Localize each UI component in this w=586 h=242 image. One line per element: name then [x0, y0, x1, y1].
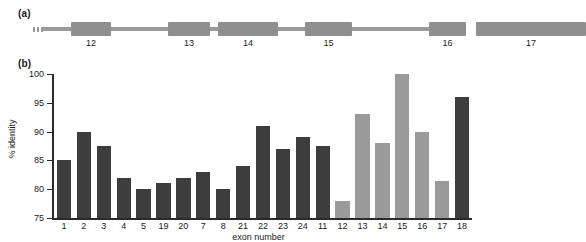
- y-tick-label-85: 85: [0, 156, 44, 165]
- bar-slot-exon-19: [156, 74, 170, 218]
- y-tick-mark-95: [47, 103, 53, 104]
- exon-label-12: 12: [81, 38, 101, 48]
- bar-exon-18: [455, 97, 469, 218]
- bar-exon-23: [276, 149, 290, 218]
- exon-box-17: [476, 22, 586, 36]
- y-tick-label-90: 90: [0, 128, 44, 137]
- bar-exon-13: [355, 114, 369, 218]
- bar-series: [54, 74, 472, 218]
- dot: [33, 27, 35, 32]
- gene-structure-diagram: 121314151617: [33, 22, 463, 36]
- exon-label-14: 14: [238, 38, 258, 48]
- exon-box-12: [71, 22, 111, 36]
- bar-exon-12: [335, 201, 349, 218]
- y-tick-label-100: 100: [0, 70, 44, 79]
- bar-exon-8: [216, 189, 230, 218]
- x-axis-line: [52, 218, 472, 220]
- exon-box-13: [168, 22, 210, 36]
- bar-slot-exon-24: [296, 74, 310, 218]
- bar-slot-exon-1: [57, 74, 71, 218]
- exon-box-15: [305, 22, 352, 36]
- bar-exon-24: [296, 137, 310, 218]
- dot: [37, 27, 39, 32]
- bar-slot-exon-15: [395, 74, 409, 218]
- panel-a-label: (a): [18, 8, 31, 19]
- bar-slot-exon-13: [355, 74, 369, 218]
- bar-slot-exon-2: [77, 74, 91, 218]
- exon-box-16: [429, 22, 466, 36]
- dot: [41, 27, 43, 32]
- y-tick-mark-80: [47, 189, 53, 190]
- bar-slot-exon-23: [276, 74, 290, 218]
- bar-exon-21: [236, 166, 250, 218]
- exon-label-13: 13: [179, 38, 199, 48]
- x-axis-title: exon number: [0, 232, 477, 242]
- bar-exon-19: [156, 183, 170, 218]
- bar-slot-exon-21: [236, 74, 250, 218]
- bar-slot-exon-22: [256, 74, 270, 218]
- bar-exon-14: [375, 143, 389, 218]
- bar-slot-exon-4: [117, 74, 131, 218]
- chart-plot-area: % identity 7580859095100 123451920782122…: [0, 56, 477, 242]
- y-tick-mark-75: [47, 218, 53, 219]
- bar-slot-exon-11: [316, 74, 330, 218]
- exon-label-15: 15: [319, 38, 339, 48]
- panel-b-bar-chart: (b) % identity 7580859095100 12345192078…: [0, 56, 477, 242]
- bar-exon-20: [176, 178, 190, 218]
- bar-slot-exon-7: [196, 74, 210, 218]
- bar-exon-7: [196, 172, 210, 218]
- y-tick-mark-100: [47, 74, 53, 75]
- bar-slot-exon-5: [136, 74, 150, 218]
- panel-a-gene-structure: (a) 121314151617: [0, 0, 477, 58]
- bar-slot-exon-3: [97, 74, 111, 218]
- y-tick-mark-90: [47, 132, 53, 133]
- y-tick-label-75: 75: [0, 214, 44, 223]
- gene-left-truncation-dots: [33, 26, 43, 32]
- bar-slot-exon-17: [435, 74, 449, 218]
- bar-slot-exon-16: [415, 74, 429, 218]
- bar-exon-4: [117, 178, 131, 218]
- exon-box-14: [218, 22, 278, 36]
- bar-exon-5: [136, 189, 150, 218]
- bar-exon-3: [97, 146, 111, 218]
- bar-exon-2: [77, 132, 91, 218]
- bar-exon-16: [415, 132, 429, 218]
- exon-label-16: 16: [438, 38, 458, 48]
- bar-slot-exon-20: [176, 74, 190, 218]
- exon-label-17: 17: [521, 38, 541, 48]
- bar-exon-22: [256, 126, 270, 218]
- bar-exon-17: [435, 181, 449, 218]
- x-tick-label-exon-18: 18: [450, 222, 474, 231]
- bar-slot-exon-12: [335, 74, 349, 218]
- y-tick-label-80: 80: [0, 185, 44, 194]
- y-tick-mark-85: [47, 160, 53, 161]
- bar-exon-15: [395, 74, 409, 218]
- bar-slot-exon-18: [455, 74, 469, 218]
- y-tick-label-95: 95: [0, 99, 44, 108]
- bar-slot-exon-8: [216, 74, 230, 218]
- bar-slot-exon-14: [375, 74, 389, 218]
- bar-exon-11: [316, 146, 330, 218]
- bar-exon-1: [57, 160, 71, 218]
